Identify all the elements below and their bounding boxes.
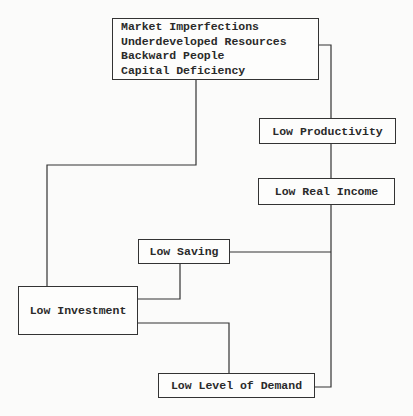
cause-market-imperfections: Market Imperfections (121, 20, 259, 35)
cause-backward-people: Backward People (121, 49, 225, 64)
causes-box: Market Imperfections Underdeveloped Reso… (112, 18, 319, 80)
low-investment-label: Low Investment (30, 304, 127, 317)
cause-capital-deficiency: Capital Deficiency (121, 64, 245, 79)
low-saving-box: Low Saving (138, 239, 230, 264)
cause-underdeveloped-resources: Underdeveloped Resources (121, 35, 287, 50)
low-level-of-demand-label: Low Level of Demand (171, 379, 302, 392)
edge-low-investment-to-low-level-of-demand (138, 323, 229, 373)
low-real-income-box: Low Real Income (258, 178, 395, 205)
edge-causes-to-low-productivity (318, 45, 331, 118)
low-real-income-label: Low Real Income (275, 185, 379, 198)
low-saving-label: Low Saving (149, 245, 218, 258)
edge-low-real-income-to-low-level-of-demand (315, 205, 331, 387)
low-productivity-label: Low Productivity (272, 125, 382, 138)
low-level-of-demand-box: Low Level of Demand (158, 373, 315, 398)
low-investment-box: Low Investment (18, 286, 138, 335)
low-productivity-box: Low Productivity (259, 118, 396, 144)
edge-low-saving-to-low-investment (138, 263, 180, 299)
